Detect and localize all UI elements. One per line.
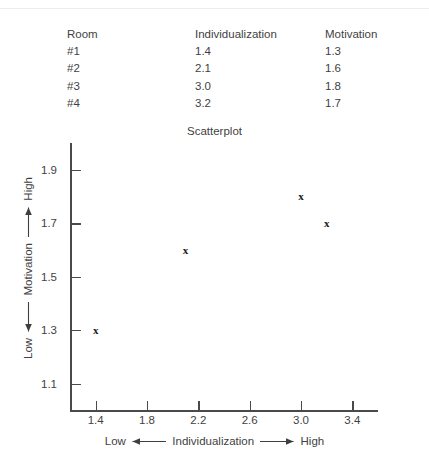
- data-point-marker: x: [183, 245, 189, 255]
- x-tick-label: 1.4: [88, 414, 104, 426]
- y-tick-label: 1.7: [41, 218, 57, 229]
- x-tick-label: 3.4: [344, 414, 360, 426]
- column-header-individualization: Individualization: [195, 28, 325, 45]
- cell-room: #2: [67, 62, 195, 79]
- cell-motivation: 1.8: [325, 80, 407, 97]
- y-tick-mark: [72, 223, 81, 224]
- x-tick-mark: [198, 401, 199, 410]
- x-tick-label: 3.0: [293, 414, 309, 426]
- cell-individualization: 3.2: [195, 97, 325, 114]
- x-tick-mark: [301, 401, 302, 410]
- y-tick-mark: [72, 170, 81, 171]
- x-tick-label: 2.2: [190, 414, 206, 426]
- x-tick-mark: [250, 401, 251, 410]
- cell-motivation: 1.6: [325, 62, 407, 79]
- chart-title: Scatterplot: [0, 125, 429, 137]
- y-tick-label: 1.3: [41, 325, 57, 336]
- y-axis-label-low: Low: [22, 338, 34, 359]
- column-header-room: Room: [67, 28, 195, 45]
- data-point-marker: x: [324, 218, 330, 228]
- table-row: #4 3.2 1.7: [67, 97, 407, 114]
- data-point-marker: x: [298, 191, 304, 201]
- cell-individualization: 2.1: [195, 62, 325, 79]
- cell-motivation: 1.3: [325, 45, 407, 62]
- y-tick-label: 1.1: [41, 378, 57, 389]
- x-tick-mark: [352, 401, 353, 410]
- top-divider: [0, 8, 429, 9]
- cell-room: #3: [67, 80, 195, 97]
- cell-motivation: 1.7: [325, 97, 407, 114]
- y-tick-mark: [72, 384, 81, 385]
- scatterplot-chart: Scatterplot 1.11.31.51.71.9 1.41.82.22.6…: [0, 115, 429, 472]
- y-axis-label: Low Motivation High: [22, 148, 34, 388]
- arrow-left-icon: [132, 437, 166, 446]
- arrow-left-icon: [24, 302, 33, 332]
- data-table: Room Individualization Motivation #1 1.4…: [67, 28, 407, 114]
- x-axis-label-name: Individualization: [172, 435, 254, 447]
- y-tick-mark: [72, 277, 81, 278]
- table-row: #1 1.4 1.3: [67, 45, 407, 62]
- y-tick-label: 1.9: [41, 164, 57, 175]
- x-tick-label: 1.8: [139, 414, 155, 426]
- cell-room: #4: [67, 97, 195, 114]
- table-row: #3 3.0 1.8: [67, 80, 407, 97]
- x-tick-label: 2.6: [242, 414, 258, 426]
- x-axis-label-low: Low: [105, 435, 126, 447]
- x-tick-mark: [147, 401, 148, 410]
- cell-individualization: 1.4: [195, 45, 325, 62]
- data-point-marker: x: [93, 325, 99, 335]
- x-axis-label: Low Individualization High: [0, 435, 429, 447]
- y-axis-label-high: High: [22, 177, 34, 201]
- arrow-right-icon: [24, 207, 33, 237]
- y-axis-label-name: Motivation: [22, 243, 34, 295]
- x-axis-label-high: High: [301, 435, 325, 447]
- y-tick-label: 1.5: [41, 271, 57, 282]
- x-axis-line: [70, 410, 378, 412]
- cell-individualization: 3.0: [195, 80, 325, 97]
- cell-room: #1: [67, 45, 195, 62]
- x-tick-mark: [96, 401, 97, 410]
- table-header-row: Room Individualization Motivation: [67, 28, 407, 45]
- arrow-right-icon: [260, 437, 294, 446]
- table-row: #2 2.1 1.6: [67, 62, 407, 79]
- y-tick-mark: [72, 330, 81, 331]
- column-header-motivation: Motivation: [325, 28, 407, 45]
